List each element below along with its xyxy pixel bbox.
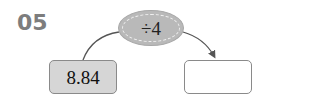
arc-in: [83, 32, 119, 60]
operation-label: ÷4: [119, 18, 183, 40]
operation-oval: ÷4: [118, 10, 184, 46]
answer-box[interactable]: [184, 60, 252, 94]
arc-out: [183, 32, 214, 56]
input-box: 8.84: [49, 60, 117, 94]
input-value: 8.84: [50, 67, 116, 89]
